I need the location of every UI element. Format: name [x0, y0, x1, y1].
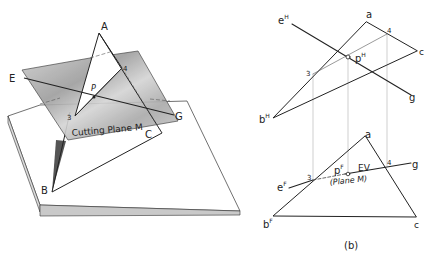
point-P — [93, 96, 96, 99]
label-B: B — [41, 185, 48, 196]
label-3-front: 3 — [307, 174, 311, 182]
label-c-top: c — [419, 47, 424, 57]
label-G: G — [175, 111, 183, 122]
label-eF: eF — [277, 180, 287, 193]
line-eg-front-right — [345, 163, 411, 174]
label-C: C — [145, 129, 152, 140]
label-4-front: 4 — [387, 159, 392, 167]
label-P: P — [91, 84, 96, 93]
label-eH: eH — [278, 13, 289, 26]
label-g-front: g — [412, 159, 418, 170]
label-bF: bF — [263, 217, 273, 230]
label-c-front: c — [414, 220, 419, 230]
label-ev: EV — [358, 163, 371, 173]
label-4-top: 4 — [387, 27, 392, 35]
label-3-top: 3 — [306, 70, 310, 78]
caption-b: (b) — [344, 240, 358, 251]
pictorial-view: A E G C B P 3 4 Cutting Plane M — [8, 21, 240, 216]
label-4: 4 — [123, 65, 128, 73]
line-eg-top — [292, 24, 411, 95]
label-a-front: a — [365, 129, 371, 140]
triangle-top — [273, 22, 417, 118]
label-a-top: a — [366, 9, 372, 20]
intersection-diagram: A E G C B P 3 4 Cutting Plane M eH a 4 c… — [0, 0, 433, 257]
point-pH — [346, 55, 350, 59]
label-bH: bH — [259, 112, 270, 125]
label-pH: pH — [355, 51, 366, 64]
label-A: A — [101, 21, 108, 32]
label-E: E — [9, 73, 15, 84]
line-3-4-top — [313, 34, 387, 74]
orthographic-view: eH a 4 c pH 3 g bH a eF 3 pF EV (Plane M… — [259, 9, 424, 251]
label-3: 3 — [67, 114, 71, 122]
label-g-top: g — [409, 92, 415, 103]
